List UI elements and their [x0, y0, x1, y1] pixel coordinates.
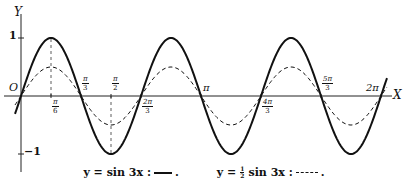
- x-axis-label: X: [393, 89, 402, 101]
- y-axis-label: Y: [14, 6, 22, 18]
- x-tick-label: π2: [112, 76, 119, 92]
- tick-denominator: 3: [83, 84, 87, 92]
- sine-plot: [0, 0, 408, 189]
- tick-numerator: π: [82, 76, 89, 84]
- axes: [4, 14, 392, 172]
- tick-denominator: 3: [325, 84, 329, 92]
- legend-suffix: .: [321, 166, 325, 179]
- x-tick-label: 5π3: [322, 76, 333, 92]
- x-tick-label: 4π3: [262, 99, 273, 115]
- y-tick-1: 1: [9, 30, 17, 41]
- legend-label-sin3x: y = sin 3x :: [83, 166, 151, 179]
- legend-fraction: 1 2: [240, 166, 244, 179]
- tick-numerator: 5π: [322, 76, 333, 84]
- legend-item-solid: y = sin 3x : .: [83, 166, 178, 179]
- legend-swatch-solid: [154, 172, 172, 174]
- tick-denominator: 6: [53, 107, 57, 115]
- tick-denominator: 3: [265, 107, 269, 115]
- legend-label-half-b: sin 3x :: [248, 166, 292, 179]
- legend: y = sin 3x : . y = 1 2 sin 3x : .: [0, 166, 408, 179]
- tick-numerator: π: [52, 99, 59, 107]
- origin-label: O: [9, 82, 18, 93]
- x-tick-label: π6: [52, 99, 59, 115]
- legend-label-half-a: y =: [217, 166, 236, 179]
- x-tick-label: π: [202, 83, 211, 93]
- x-tick-label: 2π3: [142, 99, 153, 115]
- tick-numerator: 2π: [142, 99, 153, 107]
- y-tick-minus-1: −1: [24, 146, 41, 157]
- tick-numerator: π: [202, 83, 211, 93]
- x-tick-label: π3: [82, 76, 89, 92]
- tick-denominator: 3: [145, 107, 149, 115]
- tick-numerator: 4π: [262, 99, 273, 107]
- legend-item-dashed: y = 1 2 sin 3x : .: [217, 166, 325, 179]
- x-tick-label: 2π: [365, 83, 380, 93]
- fraction-denominator: 2: [240, 173, 244, 179]
- tick-numerator: π: [112, 76, 119, 84]
- tick-numerator: 2π: [365, 83, 380, 93]
- legend-swatch-dashed: [296, 172, 318, 173]
- tick-denominator: 2: [113, 84, 117, 92]
- legend-suffix: .: [175, 166, 179, 179]
